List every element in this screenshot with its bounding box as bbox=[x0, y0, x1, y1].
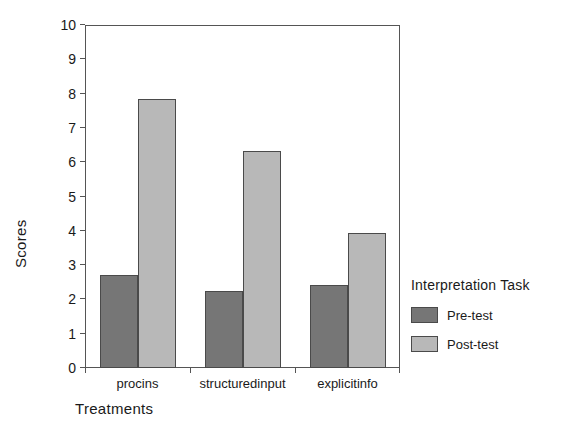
bars-layer bbox=[85, 25, 400, 368]
bar-procins-pre-test bbox=[100, 275, 138, 368]
y-axis-title: Scores bbox=[12, 220, 29, 269]
legend: Interpretation Task Pre-testPost-test bbox=[411, 277, 576, 365]
x-tick-mark bbox=[190, 368, 191, 373]
x-tick-mark bbox=[399, 368, 400, 373]
y-tick-label: 9 bbox=[68, 49, 76, 69]
x-axis-title: Treatments bbox=[75, 400, 153, 417]
legend-swatch-icon bbox=[411, 307, 438, 323]
y-tick-label: 8 bbox=[68, 84, 76, 104]
y-tick-label: 4 bbox=[68, 221, 76, 241]
legend-label: Pre-test bbox=[447, 308, 493, 323]
x-tick-mark bbox=[295, 368, 296, 373]
x-axis-label-explicitinfo: explicitinfo bbox=[317, 376, 378, 391]
y-axis: 012345678910 bbox=[0, 0, 85, 428]
y-tick-label: 1 bbox=[68, 324, 76, 344]
legend-item-post-test: Post-test bbox=[411, 336, 576, 352]
y-tick-label: 3 bbox=[68, 255, 76, 275]
bar-explicitinfo-post-test bbox=[348, 233, 386, 368]
y-tick-label: 2 bbox=[68, 289, 76, 309]
x-axis-label-structuredinput: structuredinput bbox=[200, 376, 286, 391]
bar-explicitinfo-pre-test bbox=[310, 285, 348, 368]
legend-swatch-icon bbox=[411, 336, 438, 352]
x-axis: procinsstructuredinputexplicitinfo bbox=[85, 368, 400, 398]
x-tick-mark bbox=[85, 368, 86, 373]
y-tick-label: 6 bbox=[68, 152, 76, 172]
legend-title: Interpretation Task bbox=[411, 277, 576, 293]
bar-structuredinput-post-test bbox=[243, 151, 281, 368]
bar-structuredinput-pre-test bbox=[205, 291, 243, 368]
x-axis-label-procins: procins bbox=[117, 376, 159, 391]
y-tick-label: 5 bbox=[68, 187, 76, 207]
legend-label: Post-test bbox=[447, 337, 498, 352]
bar-procins-post-test bbox=[138, 99, 176, 368]
bar-chart: 012345678910 Scores procinsstructuredinp… bbox=[0, 0, 583, 428]
legend-entries: Pre-testPost-test bbox=[411, 307, 576, 352]
y-tick-label: 7 bbox=[68, 118, 76, 138]
y-tick-label: 10 bbox=[60, 15, 76, 35]
y-tick-label: 0 bbox=[68, 358, 76, 378]
legend-item-pre-test: Pre-test bbox=[411, 307, 576, 323]
